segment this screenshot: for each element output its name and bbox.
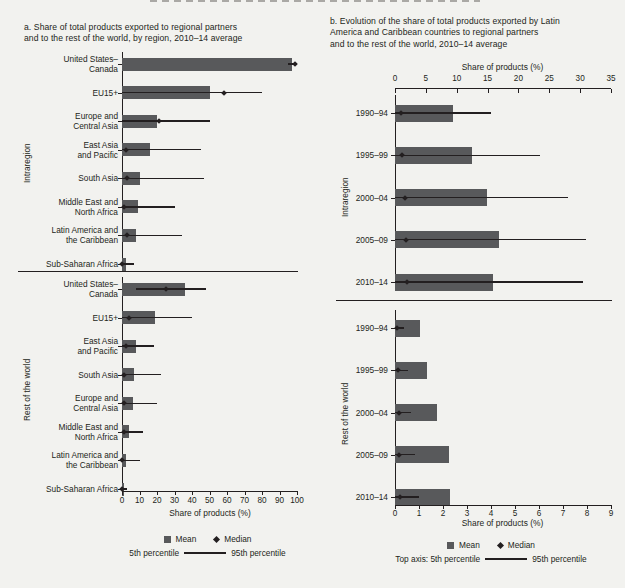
mean-swatch-icon (447, 542, 454, 549)
panel-a-whisker (122, 317, 192, 318)
panel-b-bottom-axis (395, 505, 611, 506)
legend-p95-label: 95th percentile (231, 548, 285, 558)
panel-b-y-tick (391, 497, 395, 498)
panel-b-whisker (395, 239, 586, 240)
mean-swatch-icon (164, 536, 171, 543)
panel-a-y-label-line1: Middle East and (18, 197, 118, 207)
panel-a-y-tick (118, 264, 122, 265)
panel-a-y-tick (118, 432, 122, 433)
panel-a-y-label-line2: and Pacific (18, 346, 118, 356)
panel-b-bottom-tick-label: 3 (454, 509, 480, 518)
panel-a-y-label: Latin America andthe Caribbean (18, 225, 118, 245)
panel-a-y-tick (118, 318, 122, 319)
panel-a-whisker (122, 206, 175, 207)
panel-b-top-tick (488, 89, 489, 93)
panel-b-group-separator (336, 300, 612, 301)
panel-a-whisker (122, 178, 204, 179)
panel-a-whisker (122, 403, 157, 404)
panel-b-top-tick (426, 89, 427, 93)
panel-a-y-tick (118, 150, 122, 151)
panel-a-x-tick (192, 491, 193, 495)
panel-b-y-label: 2005–09 (336, 235, 388, 245)
panel-b-top-tick-label: 0 (382, 74, 408, 83)
panel-a-y-label-line2: the Caribbean (18, 235, 118, 245)
panel-b-top-tick (549, 89, 550, 93)
panel-b-title-line1: b. Evolution of the share of total produ… (330, 16, 620, 27)
panel-b-y-tick (391, 282, 395, 283)
panel-a-whisker (122, 92, 262, 93)
panel-a-y-label-line2: Central Asia (18, 121, 118, 131)
panel-b-y-tick (391, 198, 395, 199)
panel-b-whisker (395, 112, 491, 113)
panel-b-y-label: 2000–04 (336, 193, 388, 203)
panel-b-bottom-tick-label: 8 (574, 509, 600, 518)
panel-a-median-marker (221, 90, 227, 96)
panel-b-bottom-tick-label: 2 (430, 509, 456, 518)
panel-b-y-label: 1990–94 (336, 108, 388, 118)
panel-b-y-tick (391, 455, 395, 456)
panel-a-y-label-line2: Central Asia (18, 403, 118, 413)
panel-b-bottom-tick-label: 4 (478, 509, 504, 518)
panel-a-y-label: South Asia (18, 370, 118, 380)
panel-b-top-tick (395, 89, 396, 93)
panel-b-bottom-tick-label: 5 (502, 509, 528, 518)
panel-a-y-label: East Asiaand Pacific (18, 336, 118, 356)
panel-b-y-label: 2010–14 (336, 277, 388, 287)
panel-a-y-label: United States–Canada (18, 54, 118, 74)
panel-b-title: b. Evolution of the share of total produ… (330, 16, 620, 50)
panel-a-y-label: EU15+ (18, 88, 118, 98)
panel-a-x-tick (210, 491, 211, 495)
panel-b-y-label: 1990–94 (336, 323, 388, 333)
panel-b-top-tick (518, 89, 519, 93)
panel-a-whisker (122, 149, 201, 150)
panel-a-y-label-line1: South Asia (18, 173, 118, 183)
panel-b-top-tick-label: 5 (413, 74, 439, 83)
panel-a-median-marker (292, 61, 298, 67)
panel-a-y-label-line2: Canada (18, 64, 118, 74)
panel-a-y-tick (118, 178, 122, 179)
panel-a-y-label-line1: EU15+ (18, 313, 118, 323)
panel-a-y-label: EU15+ (18, 313, 118, 323)
panel-b-y-label: 1995–99 (336, 150, 388, 160)
panel-a-y-label: South Asia (18, 173, 118, 183)
panel-b-bottom-tick-label: 6 (526, 509, 552, 518)
panel-a-whisker (122, 374, 161, 375)
legend-median-label: Median (224, 534, 251, 544)
panel-a-y-tick (118, 375, 122, 376)
panel-b-top-tick-label: 25 (536, 74, 562, 83)
panel-a-y-label: Sub-Saharan Africa (18, 484, 118, 494)
panel-a-whisker (122, 235, 182, 236)
panel-a-y-label-line2: Canada (18, 289, 118, 299)
panel-b-top-axis-title: Share of products (%) (390, 62, 615, 72)
percentile-line-icon (485, 558, 527, 560)
panel-a-x-tick-label: 100 (284, 496, 310, 505)
legend-median-label: Median (508, 540, 535, 550)
panel-a-y-label-line1: East Asia (18, 336, 118, 346)
panel-a-y-tick (118, 489, 122, 490)
panel-b-whisker (395, 155, 540, 156)
panel-b-top-tick-label: 10 (444, 74, 470, 83)
panel-b-top-tick (580, 89, 581, 93)
panel-b-bottom-axis-title: Share of products (%) (390, 518, 615, 528)
panel-a-y-label-line1: United States– (18, 54, 118, 64)
panel-a-whisker (122, 120, 210, 121)
legend-p5-label: 5th percentile (129, 548, 179, 558)
panel-a-x-tick (227, 491, 228, 495)
panel-a-x-tick (157, 491, 158, 495)
panel-b-bottom-tick-label: 7 (550, 509, 576, 518)
panel-b: b. Evolution of the share of total produ… (318, 0, 625, 588)
panel-a-y-label: Middle East andNorth Africa (18, 197, 118, 217)
panel-b-top-tick-label: 35 (598, 74, 624, 83)
panel-a-y-label: Sub-Saharan Africa (18, 259, 118, 269)
panel-b-y-label: 2005–09 (336, 450, 388, 460)
panel-a-y-tick (118, 346, 122, 347)
panel-a-y-label: Europe andCentral Asia (18, 393, 118, 413)
panel-b-title-line2: America and Caribbean countries to regio… (330, 27, 620, 38)
panel-a-y-label: Europe andCentral Asia (18, 111, 118, 131)
panel-b-y-tick (391, 413, 395, 414)
panel-b-y-label: 2010–14 (336, 492, 388, 502)
panel-a-y-label-line1: South Asia (18, 370, 118, 380)
panel-a: a. Share of total products exported to r… (0, 0, 318, 588)
panel-a-y-tick (118, 289, 122, 290)
panel-a-y-label-line1: Sub-Saharan Africa (18, 484, 118, 494)
